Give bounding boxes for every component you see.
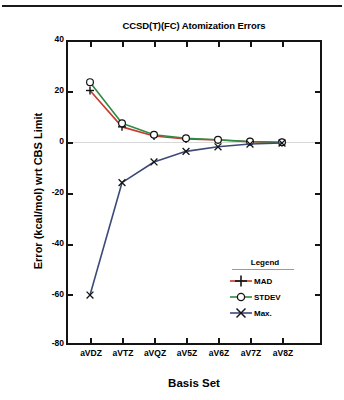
x-tickmark-top (250, 40, 252, 47)
chart-title: CCSD(T)(FC) Atomization Errors (66, 20, 322, 31)
x-tickmark-top (154, 40, 156, 47)
y-tick-label: 20 (36, 86, 64, 95)
x-tickmark-bottom (90, 338, 92, 345)
legend-label-max: Max. (254, 309, 272, 318)
zero-reference-line (66, 142, 322, 143)
y-tick-0: 0 (30, 137, 64, 147)
y-tick-m40: -40 (30, 239, 64, 249)
y-tickmark-left (66, 40, 73, 42)
x-tickmark-bottom (122, 338, 124, 345)
legend-divider (232, 269, 294, 270)
legend-label-stdev: STDEV (254, 293, 281, 302)
legend-item-mad: MAD (228, 273, 302, 289)
legend-item-stdev: STDEV (228, 289, 302, 305)
y-tick-label: 0 (36, 137, 64, 146)
y-tickmark-right (315, 343, 322, 345)
legend-marker-plus-icon (228, 274, 254, 288)
chart-figure: CCSD(T)(FC) Atomization Errors Error (kc… (0, 0, 344, 400)
y-tickmark-left (66, 193, 73, 195)
x-tickmark-top (186, 40, 188, 47)
y-tickmark-right (315, 294, 322, 296)
y-tick-m20: -20 (30, 188, 64, 198)
x-axis-label: Basis Set (66, 377, 322, 389)
y-tick-m60: -60 (30, 290, 64, 300)
y-tick-label: -80 (36, 339, 64, 348)
y-tick-label: 40 (36, 35, 64, 44)
y-tickmark-right (315, 40, 322, 42)
x-tickmark-bottom (250, 338, 252, 345)
x-tickmark-top (90, 40, 92, 47)
y-tick-40: 40 (30, 35, 64, 45)
y-tickmark-left (66, 343, 73, 345)
legend: Legend MAD STDEV (228, 258, 302, 326)
y-tick-label: -60 (36, 290, 64, 299)
y-tick-label: -20 (36, 188, 64, 197)
legend-marker-circle-icon (228, 290, 254, 304)
x-tick-label-av8z: aV8Z (261, 348, 305, 358)
legend-label-mad: MAD (254, 277, 272, 286)
y-tickmark-left (66, 244, 73, 246)
legend-item-max: Max. (228, 305, 302, 321)
y-tickmark-right (315, 193, 322, 195)
legend-marker-x-icon (228, 306, 254, 320)
y-tickmark-left (66, 142, 73, 144)
legend-title: Legend (228, 258, 302, 268)
x-tickmark-top (122, 40, 124, 47)
x-tickmark-top (282, 40, 284, 47)
y-tickmark-right (315, 244, 322, 246)
y-tickmark-right (315, 142, 322, 144)
x-tickmark-bottom (282, 338, 284, 345)
x-tickmark-bottom (154, 338, 156, 345)
y-tick-m80: -80 (30, 339, 64, 349)
y-tickmark-left (66, 91, 73, 93)
x-tickmark-top (218, 40, 220, 47)
y-tickmark-right (315, 91, 322, 93)
y-tickmark-left (66, 294, 73, 296)
y-tick-label: -40 (36, 239, 64, 248)
x-tickmark-bottom (186, 338, 188, 345)
x-tickmark-bottom (218, 338, 220, 345)
y-tick-20: 20 (30, 86, 64, 96)
